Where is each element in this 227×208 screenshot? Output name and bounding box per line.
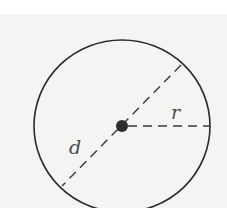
center-point	[116, 120, 128, 132]
diameter-label: d	[69, 136, 81, 158]
radius-label: r	[171, 101, 182, 123]
diagram-canvas: r d	[0, 0, 227, 208]
circle-diagram: r d	[0, 0, 227, 208]
